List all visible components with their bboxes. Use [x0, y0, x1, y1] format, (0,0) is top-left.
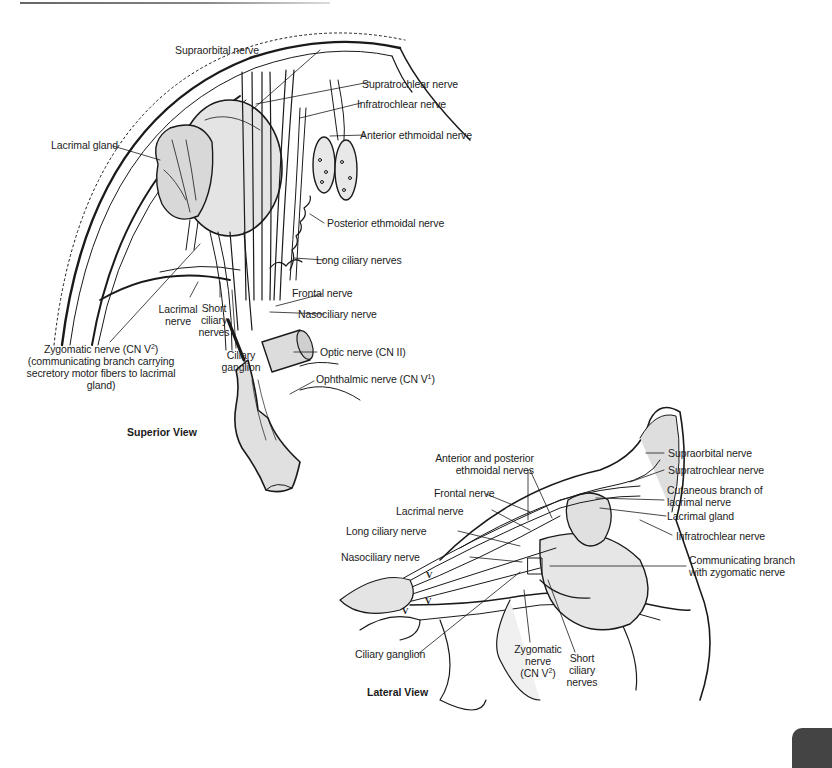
label-short-ciliary-nerves-superior: Short ciliary nerves [192, 302, 236, 338]
label-communicating-branch: Communicating branch with zygomatic nerv… [689, 554, 795, 578]
label-nasociliary-nerve-lateral: Nasociliary nerve [341, 551, 420, 563]
label-supraorbital-nerve-lateral: Supraorbital nerve [668, 447, 752, 459]
label-long-ciliary-nerve-lateral: Long ciliary nerve [346, 525, 427, 537]
label-ophthalmic-nerve: Ophthalmic nerve (CN V1) [316, 373, 435, 385]
superior-view-title: Superior View [127, 426, 197, 438]
label-supratrochlear-nerve-lateral: Supratrochlear nerve [668, 464, 764, 476]
label-cutaneous-branch-lacrimal: Cutaneous branch of lacrimal nerve [667, 484, 763, 508]
label-zygomatic-nerve-superior: Zygomatic nerve (CN V2) (communicating b… [16, 343, 186, 391]
label-infratrochlear-nerve-lateral: Infratrochlear nerve [676, 530, 765, 542]
label-zygomatic-nerve-lateral: Zygomatic nerve (CN V2) [510, 643, 566, 679]
label-ciliary-ganglion-lateral: Ciliary ganglion [355, 648, 425, 660]
label-short-ciliary-nerves-lateral: Short ciliary nerves [562, 652, 602, 688]
label-frontal-nerve-lateral: Frontal nerve [434, 487, 495, 499]
label-lacrimal-nerve-lateral: Lacrimal nerve [396, 505, 463, 517]
svg-text:V: V [402, 606, 409, 616]
page-thumb-tab [792, 728, 832, 768]
label-infratrochlear-nerve-superior: Infratrochlear nerve [357, 98, 446, 110]
label-optic-nerve: Optic nerve (CN II) [320, 346, 406, 358]
svg-text:V: V [426, 570, 433, 580]
label-ant-post-ethmoidal-nerves: Anterior and posterior ethmoidal nerves [430, 452, 534, 476]
label-ciliary-ganglion-superior: Ciliary ganglion [216, 349, 266, 373]
label-lacrimal-gland-superior: Lacrimal gland [51, 139, 118, 151]
label-posterior-ethmoidal-nerve: Posterior ethmoidal nerve [327, 217, 444, 229]
label-nasociliary-nerve-superior: Nasociliary nerve [298, 308, 377, 320]
label-supraorbital-nerve-superior: Supraorbital nerve [175, 44, 259, 56]
label-long-ciliary-nerves: Long ciliary nerves [316, 254, 402, 266]
lateral-view-title: Lateral View [367, 686, 428, 698]
label-anterior-ethmoidal-nerve: Anterior ethmoidal nerve [360, 129, 472, 141]
label-frontal-nerve-superior: Frontal nerve [292, 287, 353, 299]
label-supratrochlear-nerve-superior: Supratrochlear nerve [362, 78, 458, 90]
svg-text:V: V [425, 596, 432, 606]
label-lacrimal-gland-lateral: Lacrimal gland [667, 510, 734, 522]
